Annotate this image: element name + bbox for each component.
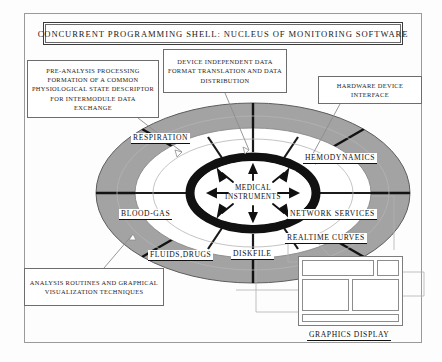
center-label: MEDICAL INSTRUMENTS (203, 184, 303, 202)
callout-pre-analysis-text: PRE-ANALYSIS PROCESSING FORMATION OF A C… (31, 66, 155, 112)
callout-analysis-routines: ANALYSIS ROUTINES AND GRAPHICAL VISUALIZ… (24, 268, 164, 306)
display-panel-top-right (377, 260, 399, 276)
sector-label-network-services[interactable]: NETWORK SERVICES (288, 209, 377, 220)
sector-label-respiration[interactable]: RESPIRATION (131, 133, 190, 144)
display-panel-status-bar (302, 314, 399, 322)
graphics-display-window[interactable] (298, 256, 403, 326)
callout-pre-analysis: PRE-ANALYSIS PROCESSING FORMATION OF A C… (27, 60, 159, 118)
sector-label-blood-gas[interactable]: BLOOD-GAS (119, 209, 172, 220)
graphics-display-middle-row (302, 279, 399, 311)
callout-analysis-routines-text: ANALYSIS ROUTINES AND GRAPHICAL VISUALIZ… (28, 278, 160, 296)
sector-label-hemodynamics[interactable]: HEMODYNAMICS (303, 153, 377, 164)
sector-label-fluids-drugs[interactable]: FLUIDS,DRUGS (148, 250, 213, 261)
sector-label-diskfile[interactable]: DISKFILE (231, 249, 274, 260)
display-panel-top-left (302, 260, 374, 276)
graphics-display-bottom-row (302, 314, 399, 322)
callout-hardware-device-text: HARDWARE DEVICE INTERFACE (322, 81, 418, 99)
callout-device-independent: DEVICE INDEPENDENT DATA FORMAT TRANSLATI… (163, 49, 287, 93)
sector-label-realtime-curves[interactable]: REALTIME CURVES (285, 233, 367, 244)
center-label-line1: MEDICAL (203, 184, 303, 193)
callout-device-independent-text: DEVICE INDEPENDENT DATA FORMAT TRANSLATI… (167, 57, 283, 85)
display-panel-mid-right (352, 279, 399, 311)
graphics-display-top-row (302, 260, 399, 276)
diagram-title-box: CONCURRENT PROGRAMMING SHELL: NUCLEUS OF… (43, 22, 403, 45)
diagram-canvas: CONCURRENT PROGRAMMING SHELL: NUCLEUS OF… (0, 0, 442, 362)
graphics-display-label: GRAPHICS DISPLAY (307, 330, 391, 341)
callout-hardware-device: HARDWARE DEVICE INTERFACE (318, 76, 422, 104)
display-panel-mid-left (302, 279, 349, 311)
page-title: CONCURRENT PROGRAMMING SHELL: NUCLEUS OF… (38, 29, 409, 39)
center-label-line2: INSTRUMENTS (203, 193, 303, 202)
